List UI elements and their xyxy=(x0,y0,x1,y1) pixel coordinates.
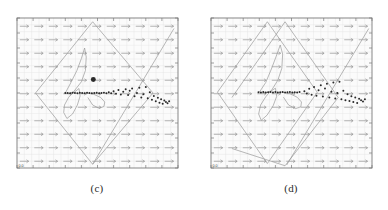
figure-container: 0.0 (c) 0.0 (d) xyxy=(0,0,388,210)
panel-c: 0.0 (c) xyxy=(0,0,194,210)
panel-d-caption: (d) xyxy=(194,182,388,194)
panel-d: 0.0 (d) xyxy=(194,0,388,210)
panel-d-corner-label: 0.0 xyxy=(213,164,218,168)
panel-c-caption: (c) xyxy=(0,182,200,194)
panel-c-corner-label: 0.0 xyxy=(19,164,24,168)
panel-c-highlight-dot xyxy=(91,77,96,82)
panel-d-plot: 0.0 xyxy=(194,0,388,210)
panel-c-plot: 0.0 xyxy=(0,0,194,210)
